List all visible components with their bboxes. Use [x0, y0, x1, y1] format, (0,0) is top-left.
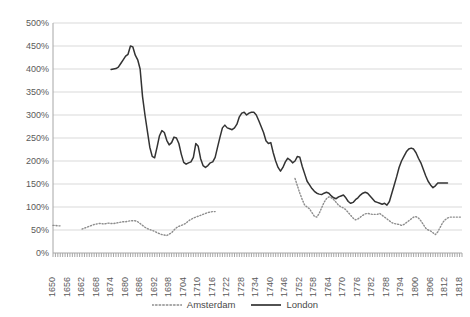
x-axis-tick-label: 1800	[411, 277, 420, 297]
x-axis-tick-labels: 1650165616621668167416801686169216981704…	[0, 257, 470, 297]
x-axis-tick-label: 1812	[440, 277, 449, 297]
x-axis-tick-label: 1716	[208, 277, 217, 297]
x-axis-tick-label: 1656	[63, 277, 72, 297]
x-axis-tick-label: 1650	[48, 277, 57, 297]
x-axis-tick-label: 1674	[106, 277, 115, 297]
x-axis-tick-label: 1704	[179, 277, 188, 297]
x-axis-tick-label: 1794	[396, 277, 405, 297]
x-axis-tick-label: 1752	[295, 277, 304, 297]
x-axis-tick-label: 1692	[150, 277, 159, 297]
x-axis-tick-label: 1764	[324, 277, 333, 297]
x-axis-tick-label: 1806	[426, 277, 435, 297]
x-axis-tick-label: 1728	[237, 277, 246, 297]
x-axis-tick-label: 1788	[382, 277, 391, 297]
legend-label-london: London	[286, 300, 318, 310]
legend-item-amsterdam[interactable]: Amsterdam	[152, 300, 236, 310]
x-axis-tick-label: 1740	[266, 277, 275, 297]
x-axis-tick-label: 1776	[353, 277, 362, 297]
series-line-london	[111, 46, 447, 205]
x-axis-tick-label: 1782	[367, 277, 376, 297]
x-axis-tick-label: 1668	[92, 277, 101, 297]
x-axis-tick-label: 1686	[135, 277, 144, 297]
x-axis-tick-label: 1710	[193, 277, 202, 297]
legend-swatch-amsterdam	[152, 301, 182, 309]
x-axis-tick-label: 1698	[164, 277, 173, 297]
x-axis-tick-label: 1734	[251, 277, 260, 297]
chart-legend: Amsterdam London	[0, 296, 470, 314]
gridlines	[53, 23, 462, 230]
legend-label-amsterdam: Amsterdam	[187, 300, 236, 310]
x-axis-tick-label: 1680	[121, 277, 130, 297]
x-axis-tick-label: 1758	[309, 277, 318, 297]
legend-item-london[interactable]: London	[251, 300, 318, 310]
legend-swatch-london	[251, 301, 281, 309]
x-axis-tick-label: 1818	[455, 277, 464, 297]
x-axis-tick-label: 1770	[338, 277, 347, 297]
line-chart: 0%50%100%150%200%250%300%350%400%450%500…	[0, 0, 470, 317]
x-axis-tick-label: 1662	[77, 277, 86, 297]
x-axis-tick-label: 1746	[280, 277, 289, 297]
series-line-amsterdam	[82, 212, 215, 236]
x-axis-tick-label: 1722	[222, 277, 231, 297]
